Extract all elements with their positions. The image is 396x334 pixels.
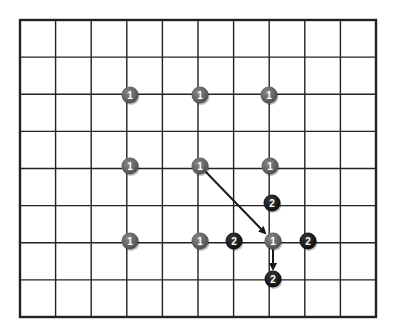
stone-label: 1: [197, 90, 203, 101]
black-stone: 2: [264, 195, 282, 214]
gray-stone: 1: [192, 233, 210, 252]
black-stone: 2: [265, 271, 283, 290]
black-stone: 2: [226, 233, 244, 252]
gray-stone: 1: [192, 87, 210, 106]
stone-label: 1: [267, 161, 273, 172]
stone-label: 2: [305, 236, 311, 247]
stone-label: 2: [231, 236, 237, 247]
stone-label: 1: [127, 236, 133, 247]
gray-stone: 1: [192, 158, 210, 177]
gray-stone: 1: [122, 87, 140, 106]
stones: 1111112112122: [122, 87, 318, 290]
stone-label: 1: [270, 236, 276, 247]
stone-label: 2: [269, 198, 275, 209]
gray-stone: 1: [122, 158, 140, 177]
stone-label: 1: [197, 161, 203, 172]
stone-label: 1: [127, 161, 133, 172]
move-arrows: [204, 170, 273, 269]
stone-label: 1: [266, 90, 272, 101]
stone-label: 2: [270, 274, 276, 285]
black-stone: 2: [300, 233, 318, 252]
stone-label: 1: [127, 90, 133, 101]
go-board-diagram: 1111112112122: [0, 0, 396, 334]
gray-stone: 1: [261, 87, 279, 106]
gray-stone: 1: [262, 158, 280, 177]
stone-label: 1: [197, 236, 203, 247]
gray-stone: 1: [122, 233, 140, 252]
gray-stone: 1: [265, 233, 283, 252]
arrow-icon: [204, 170, 265, 233]
